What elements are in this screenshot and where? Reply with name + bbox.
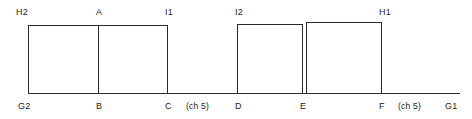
vertex-label-a: A xyxy=(96,7,102,18)
vertex-label-b: B xyxy=(96,101,102,112)
vertex-label-h1: H1 xyxy=(379,7,391,18)
step-profile-diagram: H2 A I1 I2 H1 G2 B C D E F G1 (ch 5) (ch… xyxy=(0,0,472,119)
vertex-label-i2: I2 xyxy=(235,7,243,18)
segment-note-fg1: (ch 5) xyxy=(398,101,421,112)
segment-note-cd: (ch 5) xyxy=(186,101,209,112)
vertex-label-d: D xyxy=(235,101,242,112)
vertex-label-g1: G1 xyxy=(445,101,457,112)
vertex-label-i1: I1 xyxy=(165,7,173,18)
vertex-label-c: C xyxy=(165,101,172,112)
vertex-label-f: F xyxy=(379,101,385,112)
vertex-label-h2: H2 xyxy=(16,7,28,18)
vertex-label-g2: G2 xyxy=(18,101,30,112)
vertex-label-e: E xyxy=(300,101,306,112)
